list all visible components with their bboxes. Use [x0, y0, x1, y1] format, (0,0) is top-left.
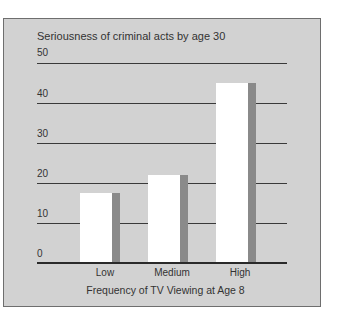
y-tick-30: 30 — [37, 128, 48, 139]
bar-shadow-low — [112, 193, 120, 263]
bar-high — [216, 83, 248, 263]
bar-shadow-medium — [180, 175, 188, 263]
y-tick-40: 40 — [37, 88, 48, 99]
y-tick-10: 10 — [37, 208, 48, 219]
x-axis-label: Frequency of TV Viewing at Age 8 — [0, 284, 334, 296]
y-tick-0: 0 — [37, 248, 43, 259]
y-tick-20: 20 — [37, 168, 48, 179]
chart-title: Seriousness of criminal acts by age 30 — [37, 30, 225, 42]
bar-medium — [148, 175, 180, 263]
x-category-low: Low — [75, 267, 135, 278]
bar-low — [80, 193, 112, 263]
gridline-50 — [37, 63, 287, 64]
x-category-medium: Medium — [142, 267, 202, 278]
x-category-high: High — [210, 267, 270, 278]
x-axis-label-text: Frequency of TV Viewing at Age 8 — [86, 284, 244, 296]
x-axis-baseline — [37, 262, 287, 264]
y-tick-50: 50 — [37, 47, 48, 58]
bar-shadow-high — [248, 83, 256, 263]
